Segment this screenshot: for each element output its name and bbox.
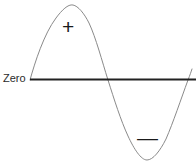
sine-wave-diagram: Zero + — [0, 0, 196, 165]
sine-curve [30, 5, 192, 160]
negative-polarity-label: — [137, 127, 158, 148]
waveform-plot [0, 0, 196, 165]
zero-axis-label: Zero [3, 72, 26, 85]
positive-polarity-label: + [62, 16, 74, 37]
